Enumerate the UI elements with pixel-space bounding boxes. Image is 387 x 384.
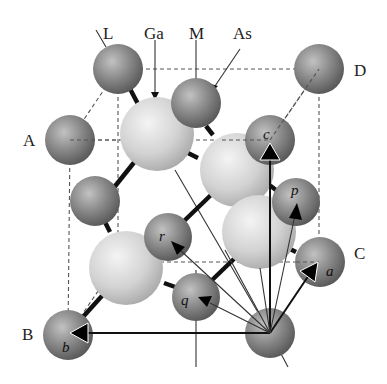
label-L: L (103, 24, 113, 43)
label-vector-c: c (263, 126, 270, 142)
label-Ga: Ga (144, 24, 164, 43)
label-As: As (233, 24, 252, 43)
label-A: A (23, 131, 36, 150)
gaas-crystal-diagram: L Ga M As D A C B c p a r q b (0, 0, 387, 384)
label-C: C (354, 244, 365, 263)
as-atom-M (171, 78, 221, 128)
label-vector-b: b (62, 339, 70, 355)
as-atom-left-mid (70, 176, 120, 226)
label-vector-a: a (326, 263, 334, 279)
label-B: B (22, 325, 33, 344)
as-atom-a (295, 237, 345, 287)
label-D: D (354, 61, 366, 80)
label-M: M (189, 24, 204, 43)
label-vector-q: q (181, 292, 189, 308)
as-atom-L (93, 44, 143, 94)
label-vector-p: p (290, 182, 299, 198)
label-vector-r: r (159, 228, 165, 244)
